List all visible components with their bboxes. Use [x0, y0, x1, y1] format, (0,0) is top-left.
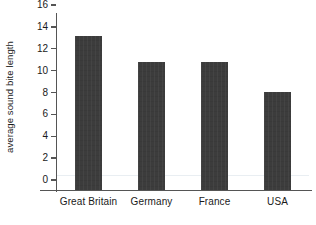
y-axis-tick-label: 10: [37, 66, 48, 76]
y-axis-tick-label: 16: [37, 0, 48, 10]
y-axis-tick: 12: [37, 44, 57, 54]
x-axis-line: [40, 190, 312, 191]
y-axis-tick-label: 2: [42, 153, 48, 163]
y-axis-tick-label: 0: [42, 175, 48, 185]
x-axis-label: France: [199, 196, 231, 207]
bar: [75, 36, 102, 190]
bar: [201, 62, 228, 190]
y-axis-tick-mark: [51, 70, 56, 71]
y-axis-tick-label: 14: [37, 22, 48, 32]
y-axis-tick-label: 6: [42, 109, 48, 119]
y-axis-tick: 6: [42, 109, 57, 119]
y-axis-tick-mark: [51, 4, 56, 5]
y-axis-tick: 14: [37, 22, 57, 32]
bar: [138, 62, 165, 190]
y-axis-tick: 10: [37, 66, 57, 76]
y-axis-title: average sound bite length: [2, 2, 18, 192]
y-axis-tick-mark: [51, 114, 56, 115]
y-axis-tick-label: 4: [42, 131, 48, 141]
y-axis-tick: 2: [42, 153, 57, 163]
y-axis-tick-mark: [51, 92, 56, 93]
bar-chart: average sound bite length 0246810121416 …: [0, 0, 316, 225]
y-axis-tick-label: 12: [37, 44, 48, 54]
bar: [264, 92, 291, 190]
x-axis-label: Germany: [131, 196, 173, 207]
x-axis-label: USA: [267, 196, 288, 207]
y-axis-tick-mark: [51, 157, 56, 158]
y-axis-tick-mark: [51, 136, 56, 137]
y-axis-tick-mark: [51, 26, 56, 27]
plot-area: 0246810121416: [57, 15, 309, 190]
y-axis-tick: 0: [42, 175, 57, 185]
x-axis-label: Great Britain: [60, 196, 117, 207]
y-axis-tick-label: 8: [42, 88, 48, 98]
y-axis-tick-mark: [51, 179, 56, 180]
y-axis-tick-mark: [51, 48, 56, 49]
y-axis-tick: 8: [42, 88, 57, 98]
y-axis-tick: 4: [42, 131, 57, 141]
y-axis-tick: 16: [37, 0, 57, 10]
